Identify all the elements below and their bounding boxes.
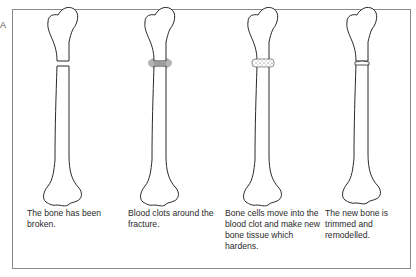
caption-remodel: The new bone is trimmed and remodelled. — [325, 208, 405, 241]
bone-callus — [244, 7, 282, 205]
bone-clot — [141, 7, 179, 205]
caption-cells: Bone cells move into the blood clot and … — [225, 208, 325, 252]
bone-broken — [44, 7, 82, 205]
caption-clot: Blood clots around the fracture. — [128, 208, 228, 230]
bone-remodelled — [343, 7, 381, 203]
caption-broken: The bone has been broken. — [27, 208, 127, 230]
